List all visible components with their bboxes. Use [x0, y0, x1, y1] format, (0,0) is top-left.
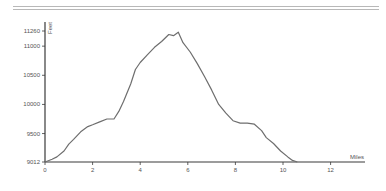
x-tick-label: 0 [43, 167, 47, 173]
y-tick-label: 11000 [24, 43, 41, 49]
elevation-profile-line [45, 32, 297, 162]
x-tick-label: 4 [139, 167, 143, 173]
x-tick-label: 2 [91, 167, 95, 173]
x-tick-label: 8 [234, 167, 238, 173]
x-axis-label: Miles [350, 154, 364, 160]
x-tick-label: 12 [327, 167, 334, 173]
elevation-chart: 9012950010000105001100011260Feet 0246810… [0, 0, 386, 191]
y-tick-label: 9500 [27, 131, 41, 137]
y-tick-label: 10500 [23, 72, 40, 78]
x-tick-label: 6 [186, 167, 190, 173]
y-tick-label: 11260 [24, 28, 41, 34]
x-axis: 024681012Miles [43, 154, 365, 173]
x-tick-label: 10 [280, 167, 287, 173]
y-axis-label: Feet [47, 22, 53, 34]
y-axis: 9012950010000105001100011260Feet [23, 22, 53, 165]
y-tick-label: 9012 [27, 159, 41, 165]
y-tick-label: 10000 [23, 101, 40, 107]
